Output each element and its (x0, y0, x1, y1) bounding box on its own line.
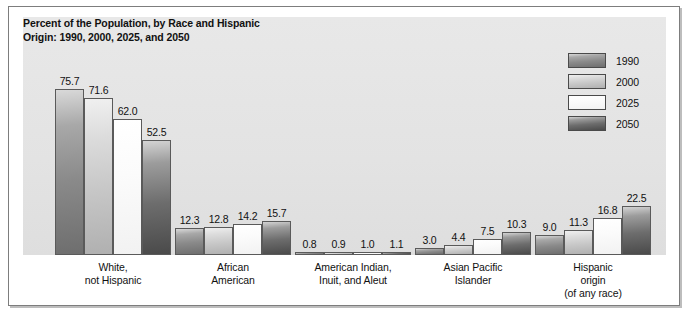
bar-2025-group-2: 14.2 (233, 17, 262, 255)
category-label-line: Hispanic (500, 261, 686, 274)
bar-value-label: 52.5 (134, 126, 180, 138)
bar-1990-group-4: 3.0 (415, 17, 444, 255)
bar-rect (535, 235, 564, 255)
bar-rect (295, 252, 324, 255)
bar-rect (415, 248, 444, 255)
bar-plot-area: 75.771.662.052.5White,not Hispanic12.312… (23, 17, 666, 255)
bar-rect (233, 224, 262, 255)
bar-rect (175, 228, 204, 255)
bar-rect (502, 232, 531, 255)
bar-rect (55, 89, 84, 255)
bar-1990-group-1: 75.7 (55, 17, 84, 255)
bar-rect (113, 119, 142, 255)
category-label-line: origin (500, 274, 686, 287)
bar-rect (353, 252, 382, 255)
category-label-line: (of any race) (500, 287, 686, 300)
chart-figure: Percent of the Population, by Race and H… (8, 6, 680, 306)
bar-2000-group-5: 11.3 (564, 17, 593, 255)
bar-group-1: 75.771.662.052.5 (55, 17, 171, 255)
bar-2025-group-3: 1.0 (353, 17, 382, 255)
bar-2025-group-5: 16.8 (593, 17, 622, 255)
bar-rect (564, 230, 593, 255)
category-label-5: Hispanicorigin(of any race) (500, 261, 686, 300)
bar-2050-group-2: 15.7 (262, 17, 291, 255)
bar-rect (622, 206, 651, 255)
bar-rect (142, 140, 171, 255)
bar-1990-group-3: 0.8 (295, 17, 324, 255)
bar-2000-group-4: 4.4 (444, 17, 473, 255)
bar-2050-group-4: 10.3 (502, 17, 531, 255)
bar-group-3: 0.80.91.01.1 (295, 17, 411, 255)
bar-value-label: 15.7 (254, 207, 300, 219)
bar-rect (593, 218, 622, 255)
bar-group-2: 12.312.814.215.7 (175, 17, 291, 255)
bar-2000-group-3: 0.9 (324, 17, 353, 255)
bar-rect (444, 245, 473, 255)
bar-2050-group-3: 1.1 (382, 17, 411, 255)
bar-2000-group-1: 71.6 (84, 17, 113, 255)
bar-2050-group-5: 22.5 (622, 17, 651, 255)
bar-value-label: 22.5 (614, 192, 660, 204)
bar-rect (473, 239, 502, 255)
bar-rect (204, 227, 233, 255)
bar-rect (84, 98, 113, 255)
bar-group-4: 3.04.47.510.3 (415, 17, 531, 255)
bar-rect (382, 252, 411, 255)
bar-group-5: 9.011.316.822.5 (535, 17, 651, 255)
bar-rect (324, 252, 353, 255)
